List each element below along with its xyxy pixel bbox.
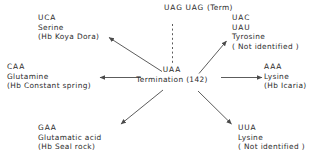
node-top-right-variant: ( Not identified ): [232, 42, 299, 52]
center-label: Termination: [136, 75, 183, 84]
node-bottom-right-codon: UUA: [238, 123, 305, 133]
node-bottom-right-uua: UUA Lysine ( Not identified ): [238, 123, 305, 152]
node-right-codon: AAA: [264, 62, 307, 72]
node-bottom-right-amino-acid: Lysine: [238, 133, 305, 143]
node-left-variant: (Hb Constant spring): [7, 81, 91, 91]
node-bottom-left-gaa: GAA Glutamatic acid (Hb Seal rock): [38, 123, 102, 152]
node-bottom-right-variant: ( Not identified ): [238, 142, 305, 152]
arrow-center-to-bottom-left: [121, 90, 163, 124]
center-position: (142): [186, 75, 208, 84]
node-bottom-left-variant: (Hb Seal rock): [38, 142, 102, 152]
node-top-right-codon-1: UAC: [232, 13, 299, 23]
node-top-center-uag: UAG UAG (Term): [164, 3, 233, 13]
node-top-left-uca: UCA Serine (Hb Koya Dora): [38, 13, 99, 42]
uag-codon-line2: UAG: [185, 3, 204, 12]
node-left-amino-acid: Glutamine: [7, 72, 91, 82]
node-bottom-left-amino-acid: Glutamatic acid: [38, 133, 102, 143]
uag-term-note: (Term): [207, 3, 233, 12]
arrow-center-to-bottom-right: [198, 91, 232, 124]
codon-mutation-diagram: UAG UAG (Term) UCA Serine (Hb Koya Dora)…: [0, 0, 318, 157]
node-right-amino-acid: Lysine: [264, 72, 307, 82]
node-top-right-uac-uau: UAC UAU Tyrosine ( Not identified ): [232, 13, 299, 51]
center-codon: UAA: [122, 65, 222, 75]
node-top-right-amino-acid: Tyrosine: [232, 32, 299, 42]
node-right-aaa: AAA Lysine (Hb Icaria): [264, 62, 307, 91]
node-bottom-left-codon: GAA: [38, 123, 102, 133]
node-top-left-amino-acid: Serine: [38, 23, 99, 33]
uag-codon-line2-row: UAG (Term): [185, 3, 232, 12]
center-label-row: Termination (142): [122, 75, 222, 85]
node-left-codon: CAA: [7, 62, 91, 72]
node-left-caa: CAA Glutamine (Hb Constant spring): [7, 62, 91, 91]
node-center-uaa: UAA Termination (142): [122, 65, 222, 84]
node-top-right-codon-2: UAU: [232, 23, 299, 33]
node-right-variant: (Hb Icaria): [264, 81, 307, 91]
uag-codon-line1: UAG: [164, 3, 183, 12]
node-top-left-variant: (Hb Koya Dora): [38, 32, 99, 42]
node-top-left-codon: UCA: [38, 13, 99, 23]
